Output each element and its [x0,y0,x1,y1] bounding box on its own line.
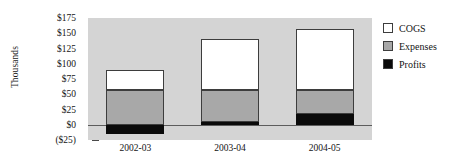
bar-segment-cogs[interactable] [296,29,354,90]
bar-group[interactable] [201,18,259,140]
bar-segment-expenses[interactable] [201,90,259,122]
y-tick-mark [92,140,99,141]
y-tick-label: $100 [14,59,76,69]
legend-swatch-profits [383,59,393,69]
legend-item[interactable]: COGS [383,20,461,36]
legend-label: Expenses [399,41,437,52]
legend-swatch-expenses [383,41,393,51]
chart-legend: COGSExpensesProfits [383,20,461,74]
bar-segment-profits[interactable] [201,122,259,125]
y-tick-label: $0 [14,120,76,130]
y-tick-label: $50 [14,89,76,99]
legend-item[interactable]: Expenses [383,38,461,54]
x-tick-label: 2004-05 [285,143,365,153]
bar-segment-expenses[interactable] [106,90,164,125]
legend-item[interactable]: Profits [383,56,461,72]
bar-group[interactable] [106,18,164,140]
y-axis-tick-labels: $175$150$125$100$75$50$25$0($25) [14,0,76,168]
bar-segment-profits[interactable] [296,114,354,125]
bar-segment-cogs[interactable] [106,70,164,90]
bar-segment-cogs[interactable] [201,39,259,90]
y-tick-label: $150 [14,28,76,38]
y-tick-label: $75 [14,74,76,84]
y-tick-label: $175 [14,13,76,23]
y-tick-label: $125 [14,44,76,54]
legend-swatch-cogs [383,23,393,33]
bar-group[interactable] [296,18,354,140]
x-tick-label: 2003-04 [190,143,270,153]
legend-label: COGS [399,23,426,34]
x-tick-label: 2002-03 [95,143,175,153]
y-tick-label: $25 [14,105,76,115]
bar-segment-expenses[interactable] [296,90,354,114]
y-tick-label: ($25) [14,135,76,145]
bar-chart: Thousands $175$150$125$100$75$50$25$0($2… [0,0,462,168]
legend-label: Profits [399,59,426,70]
bar-segment-profits[interactable] [106,125,164,134]
x-axis-tick-labels: 2002-032003-042004-05 [88,143,372,163]
